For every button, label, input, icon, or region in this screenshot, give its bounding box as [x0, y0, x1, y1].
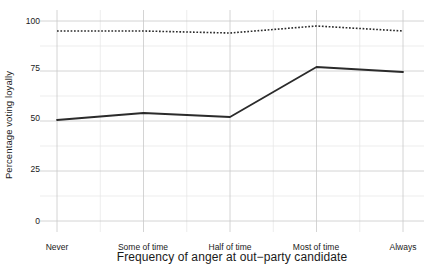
major-gridlines [40, 10, 424, 232]
y-tick-label: 50 [14, 113, 40, 123]
y-tick-100: 100 [14, 21, 40, 22]
y-tick-75: 75 [14, 68, 40, 69]
plot-area [0, 0, 424, 269]
y-tick-50: 50 [14, 118, 40, 119]
y-tick-0: 0 [14, 221, 40, 222]
y-tick-25: 25 [14, 169, 40, 170]
y-tick-label: 0 [14, 216, 40, 226]
x-axis-title: Frequency of anger at out−party candidat… [40, 250, 424, 264]
y-tick-label: 25 [14, 164, 40, 174]
line-chart: 100 75 50 25 0 Never Some of time Half o… [0, 0, 424, 269]
y-tick-label: 100 [14, 16, 40, 26]
y-tick-label: 75 [14, 63, 40, 73]
y-axis-title: Percentage voting loyally [2, 10, 16, 240]
